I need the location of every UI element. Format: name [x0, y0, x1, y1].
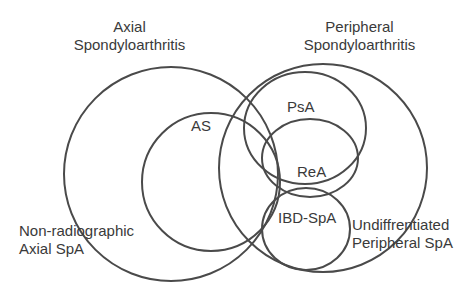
nr-axial-spa-label: Non-radiographic Axial SpA	[19, 222, 134, 258]
ibd-spa-circle	[262, 188, 350, 270]
nr-axial-line1: Non-radiographic	[19, 222, 134, 240]
peripheral-title-line1: Peripheral	[292, 18, 427, 36]
ibd-spa-label: IBD-SpA	[278, 209, 336, 227]
peripheral-spa-title: Peripheral Spondyloarthritis	[292, 18, 427, 54]
rea-label: ReA	[297, 163, 326, 181]
axial-spa-title: Axial Spondyloarthritis	[62, 18, 197, 54]
undiff-line1: Undiffrentiated	[352, 216, 453, 234]
axial-title-line2: Spondyloarthritis	[62, 36, 197, 54]
undiff-line2: Peripheral SpA	[352, 234, 453, 252]
axial-title-line1: Axial	[62, 18, 197, 36]
peripheral-title-line2: Spondyloarthritis	[292, 36, 427, 54]
psa-label: PsA	[287, 98, 315, 116]
nr-axial-line2: Axial SpA	[19, 240, 134, 258]
as-label: AS	[191, 117, 211, 135]
undiff-peripheral-spa-label: Undiffrentiated Peripheral SpA	[352, 216, 453, 252]
